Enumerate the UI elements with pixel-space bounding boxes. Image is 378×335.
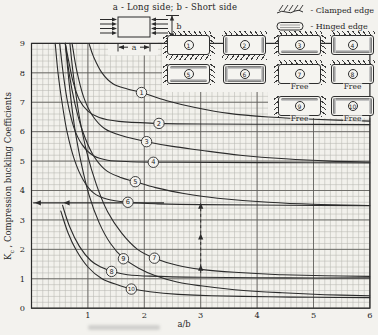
- clamped-edge-top: [330, 60, 375, 65]
- hinged-edge-right: [369, 37, 372, 53]
- clamped-edge-bottom: [222, 55, 267, 60]
- free-edge-label: Free: [290, 83, 310, 91]
- case-number-8: 8: [348, 69, 358, 79]
- buckling-coefficient-figure: 123456789100123456789123456a/bba a - Lon…: [0, 0, 378, 335]
- plate-case-1: 1: [167, 35, 210, 55]
- hinged-edge-left: [333, 37, 336, 53]
- hinged-edge-left: [225, 37, 228, 53]
- case-number-5: 5: [184, 69, 194, 79]
- plate-case-7: 7Free: [278, 64, 321, 84]
- clamped-edge-right: [321, 95, 326, 117]
- hinged-edge-bottom: [334, 50, 371, 53]
- case-number-2: 2: [240, 40, 250, 50]
- hinged-edge-right: [261, 66, 264, 82]
- plate-case-2: 2: [223, 35, 266, 55]
- free-edge-label: Free: [343, 115, 363, 123]
- hinged-edge-bottom: [281, 50, 318, 53]
- plate-case-6: 6: [223, 64, 266, 84]
- case-number-6: 6: [240, 69, 250, 79]
- plate-case-9: 9Free: [278, 96, 321, 116]
- case-number-7: 7: [295, 69, 305, 79]
- clamped-edge-right: [210, 34, 215, 56]
- clamped-edge-top: [222, 31, 267, 36]
- plate-case-4: 4: [331, 35, 374, 55]
- clamped-edge-top: [277, 31, 322, 36]
- hinged-edge-right: [369, 98, 372, 114]
- clamped-edge-bottom: [166, 55, 211, 60]
- plate-case-5: 5: [167, 64, 210, 84]
- clamped-edge-top: [166, 31, 211, 36]
- hinged-edge-left: [333, 98, 336, 114]
- clamped-edge-left: [274, 63, 279, 85]
- case-number-9: 9: [295, 101, 305, 111]
- clamped-edge-right: [321, 63, 326, 85]
- clamped-edge-right: [210, 63, 215, 85]
- clamped-edge-left: [274, 34, 279, 56]
- free-edge-label: Free: [290, 115, 310, 123]
- plate-case-3: 3: [278, 35, 321, 55]
- clamped-edge-left: [274, 95, 279, 117]
- clamped-edge-top: [277, 60, 322, 65]
- hinged-edge-right: [369, 66, 372, 82]
- case-number-10: 10: [348, 101, 358, 111]
- case-number-4: 4: [348, 40, 358, 50]
- clamped-edge-left: [163, 63, 168, 85]
- free-edge-label: Free: [343, 83, 363, 91]
- hinged-edge-left: [225, 66, 228, 82]
- clamped-edge-left: [163, 34, 168, 56]
- boundary-condition-cases: 1234567Free8Free9Free10Free: [0, 0, 378, 335]
- plate-case-10: 10Free: [331, 96, 374, 116]
- plate-case-8: 8Free: [331, 64, 374, 84]
- hinged-edge-right: [261, 37, 264, 53]
- clamped-edge-right: [321, 34, 326, 56]
- case-number-1: 1: [184, 40, 194, 50]
- clamped-edge-top: [330, 31, 375, 36]
- hinged-edge-bottom: [170, 79, 207, 82]
- case-number-3: 3: [295, 40, 305, 50]
- hinged-edge-left: [333, 66, 336, 82]
- hinged-edge-bottom: [226, 79, 263, 82]
